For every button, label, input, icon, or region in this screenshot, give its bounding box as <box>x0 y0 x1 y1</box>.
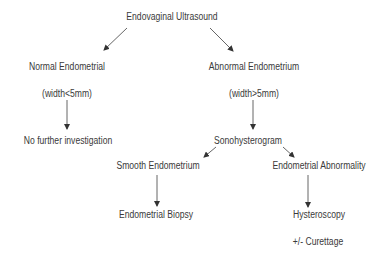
arrow-sono-to-abnormality <box>283 147 294 157</box>
node-normal-width: (width<5mm) <box>42 88 92 100</box>
arrow-sono-to-smooth <box>204 147 216 157</box>
node-endovaginal-ultrasound: Endovaginal Ultrasound <box>126 11 217 23</box>
node-curettage: +/- Curettage <box>293 236 343 248</box>
node-abnormal-width: (width>5mm) <box>229 88 279 100</box>
node-endometrial-abnormality: Endometrial Abnormality <box>272 160 365 172</box>
node-hysteroscopy: Hysteroscopy <box>293 209 345 221</box>
node-no-further-investigation: No further investigation <box>24 135 112 147</box>
node-sonohysterogram: Sonohysterogram <box>214 135 282 147</box>
node-smooth-endometrium: Smooth Endometrium <box>116 160 199 172</box>
flowchart-canvas: Endovaginal Ultrasound Normal Endometria… <box>0 0 390 256</box>
arrow-root-to-abnormal <box>210 28 233 51</box>
node-endometrial-biopsy: Endometrial Biopsy <box>119 209 193 221</box>
arrow-root-to-normal <box>104 28 127 50</box>
node-abnormal-endometrium: Abnormal Endometrium <box>209 61 299 73</box>
node-normal-endometrial: Normal Endometrial <box>29 61 105 73</box>
